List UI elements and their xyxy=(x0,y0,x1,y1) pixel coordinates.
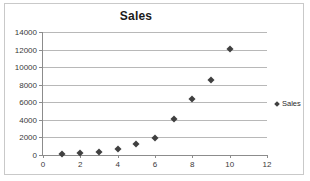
gridline xyxy=(43,32,267,33)
data-point xyxy=(207,77,214,84)
x-axis-tick xyxy=(267,155,268,158)
gridline xyxy=(43,85,267,86)
y-axis-label: 12000 xyxy=(15,45,37,54)
x-axis-label: 6 xyxy=(153,160,157,169)
x-axis-tick xyxy=(192,155,193,158)
gridline xyxy=(43,102,267,103)
data-point xyxy=(114,146,121,153)
x-axis-label: 0 xyxy=(41,160,45,169)
chart-container: Sales 02000400060008000100001200014000 0… xyxy=(4,3,304,175)
plot-area: 02000400060008000100001200014000 0246810… xyxy=(43,32,267,155)
x-axis-label: 10 xyxy=(225,160,234,169)
y-axis-tick xyxy=(39,67,43,68)
x-axis-label: 4 xyxy=(115,160,119,169)
x-axis-tick xyxy=(43,155,44,158)
y-axis-label: 0 xyxy=(33,151,37,160)
y-axis-tick xyxy=(39,120,43,121)
y-axis-label: 6000 xyxy=(19,98,37,107)
chart-legend: Sales xyxy=(275,99,301,108)
chart-title: Sales xyxy=(5,9,267,23)
data-point xyxy=(151,135,158,142)
diamond-marker-icon xyxy=(274,101,280,107)
gridline xyxy=(43,67,267,68)
x-axis-label: 12 xyxy=(263,160,272,169)
data-point xyxy=(170,115,177,122)
data-point xyxy=(226,45,233,52)
y-axis-tick xyxy=(39,85,43,86)
x-axis-tick xyxy=(118,155,119,158)
x-axis-tick xyxy=(155,155,156,158)
y-axis-label: 4000 xyxy=(19,115,37,124)
y-axis-label: 14000 xyxy=(15,28,37,37)
y-axis-label: 8000 xyxy=(19,80,37,89)
gridline xyxy=(43,120,267,121)
x-axis-label: 2 xyxy=(78,160,82,169)
y-axis-tick xyxy=(39,102,43,103)
y-axis-tick xyxy=(39,137,43,138)
y-axis-label: 2000 xyxy=(19,133,37,142)
gridline xyxy=(43,50,267,51)
x-axis-label: 8 xyxy=(190,160,194,169)
y-axis-label: 10000 xyxy=(15,63,37,72)
y-axis-tick xyxy=(39,50,43,51)
data-point xyxy=(58,151,65,158)
x-axis-tick xyxy=(230,155,231,158)
data-point xyxy=(133,141,140,148)
data-point xyxy=(189,95,196,102)
legend-label-sales: Sales xyxy=(282,99,301,108)
y-axis-tick xyxy=(39,32,43,33)
